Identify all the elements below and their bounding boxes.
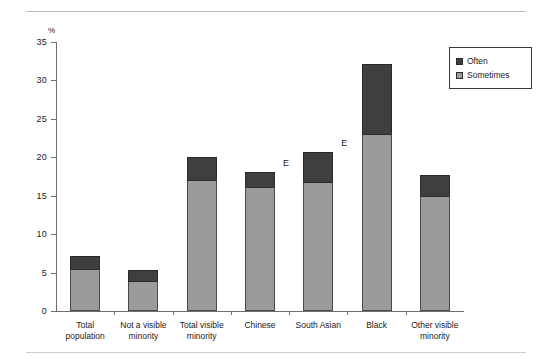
x-axis-tick xyxy=(347,311,348,315)
legend-item-often: Often xyxy=(456,55,526,67)
bar-not-a-visible-minority xyxy=(128,270,158,311)
bar-segment-often xyxy=(245,172,275,187)
bar-segment-sometimes xyxy=(187,180,217,311)
x-axis-tick xyxy=(231,311,232,315)
bar-segment-sometimes xyxy=(70,269,100,311)
y-axis-tick xyxy=(51,42,56,43)
bar-segment-often xyxy=(303,152,333,182)
bar-black xyxy=(362,64,392,311)
y-axis-tick-label: 20 xyxy=(37,152,47,162)
y-axis-tick xyxy=(51,311,56,312)
bar-segment-sometimes xyxy=(303,182,333,311)
y-axis-unit-label: % xyxy=(48,26,55,35)
chart-page: % 05101520253035EE Often Sometimes Total… xyxy=(0,0,545,362)
y-axis-tick xyxy=(51,119,56,120)
x-axis-tick xyxy=(114,311,115,315)
legend-swatch-sometimes xyxy=(456,72,463,79)
bar-segment-often xyxy=(362,64,392,135)
bar-segment-often xyxy=(420,175,450,197)
y-axis-line xyxy=(56,42,57,311)
x-axis-category-label: Other visibleminority xyxy=(400,320,470,342)
data-quality-marker-e: E xyxy=(283,158,289,168)
legend-label-often: Often xyxy=(467,55,488,67)
bar-south-asian xyxy=(303,152,333,311)
y-axis-tick xyxy=(51,157,56,158)
bar-segment-sometimes xyxy=(420,196,450,311)
legend-swatch-often xyxy=(456,58,463,65)
x-axis-tick xyxy=(173,311,174,315)
chart-legend: Often Sometimes xyxy=(449,47,532,89)
plot-area: 05101520253035EE xyxy=(56,42,464,311)
legend-item-sometimes: Sometimes xyxy=(456,69,526,81)
y-axis-tick-label: 0 xyxy=(42,306,47,316)
y-axis-tick-label: 35 xyxy=(37,37,47,47)
bar-segment-often xyxy=(70,256,100,269)
y-axis-tick xyxy=(51,234,56,235)
bar-other-visible-minority xyxy=(420,175,450,311)
bar-segment-sometimes xyxy=(245,187,275,311)
x-axis-category-label-line: Other visible xyxy=(400,320,470,331)
data-quality-marker-e: E xyxy=(341,138,347,148)
bar-chinese xyxy=(245,172,275,311)
x-axis-category-label-line: minority xyxy=(167,331,237,342)
x-axis-tick xyxy=(406,311,407,315)
page-rule-top xyxy=(26,11,526,12)
bar-segment-often xyxy=(128,270,158,281)
x-axis-tick xyxy=(289,311,290,315)
y-axis-tick xyxy=(51,273,56,274)
bar-total-population xyxy=(70,256,100,311)
x-axis-category-label-line: minority xyxy=(400,331,470,342)
y-axis-tick-label: 5 xyxy=(42,268,47,278)
y-axis-tick xyxy=(51,196,56,197)
page-rule-bottom xyxy=(26,352,526,353)
y-axis-tick-label: 30 xyxy=(37,75,47,85)
x-axis-line xyxy=(56,311,464,312)
bar-total-visible-minority xyxy=(187,157,217,311)
bar-segment-sometimes xyxy=(128,281,158,311)
y-axis-tick xyxy=(51,80,56,81)
bar-segment-sometimes xyxy=(362,134,392,311)
y-axis-tick-label: 25 xyxy=(37,114,47,124)
legend-label-sometimes: Sometimes xyxy=(467,69,510,81)
y-axis-tick-label: 15 xyxy=(37,191,47,201)
bar-segment-often xyxy=(187,157,217,181)
y-axis-tick-label: 10 xyxy=(37,229,47,239)
